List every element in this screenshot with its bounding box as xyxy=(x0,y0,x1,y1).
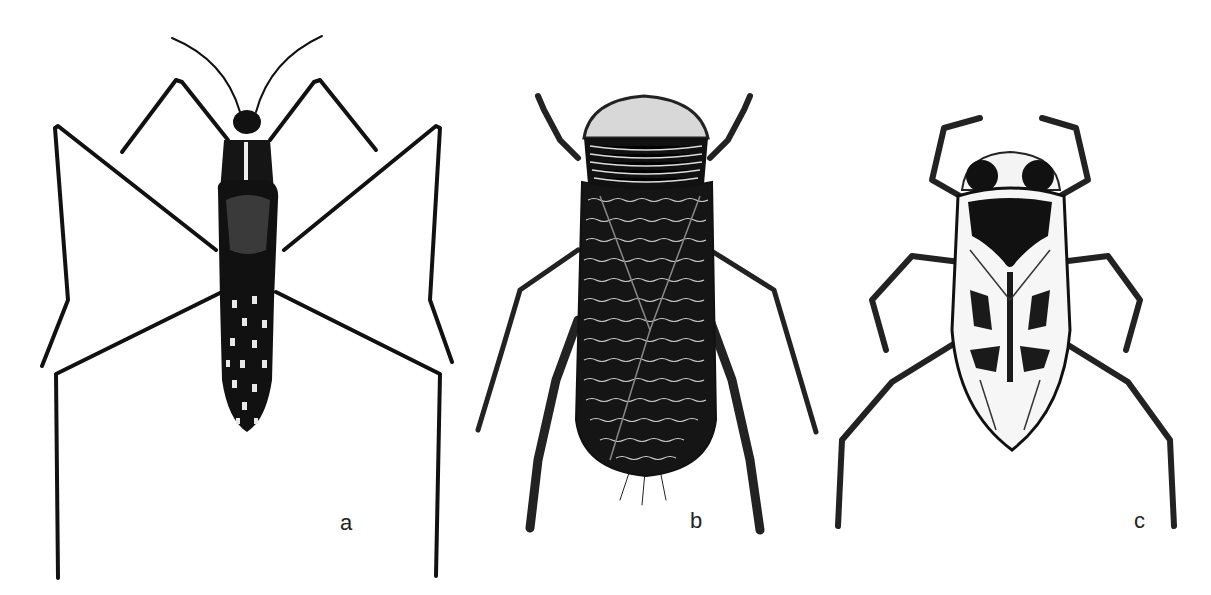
insect-b-illustration xyxy=(460,0,840,595)
panel-a: a xyxy=(0,0,480,595)
panel-label-a: a xyxy=(340,512,352,534)
panel-b: b xyxy=(460,0,840,595)
panel-c: c xyxy=(820,0,1211,595)
insect-a-illustration xyxy=(0,0,480,595)
insect-c-illustration xyxy=(820,0,1211,595)
panel-label-c: c xyxy=(1134,510,1145,532)
insect-figure: a xyxy=(0,0,1211,595)
panel-label-b: b xyxy=(690,510,702,532)
